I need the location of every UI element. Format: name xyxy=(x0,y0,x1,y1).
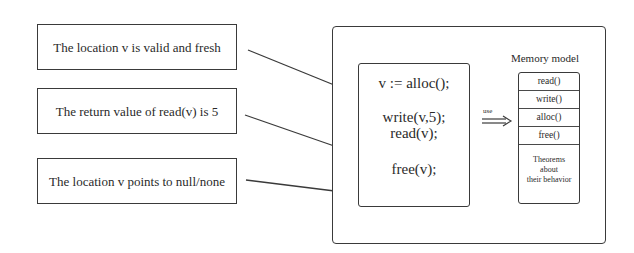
mm-op-free: free() xyxy=(519,127,579,145)
program-code-box: v := alloc(); write(v,5); read(v); free(… xyxy=(358,63,470,207)
code-line-free: free(v); xyxy=(359,161,469,177)
mm-op-write: write() xyxy=(519,91,579,109)
code-line-alloc: v := alloc(); xyxy=(359,75,469,91)
mm-theorems-line: their behavior xyxy=(519,175,579,185)
claim-box-valid-fresh: The location v is valid and fresh xyxy=(37,24,237,70)
memory-model-title: Memory model xyxy=(505,52,585,64)
claim-text: The location v points to null/none xyxy=(49,174,225,189)
claim-text: The return value of read(v) is 5 xyxy=(56,104,218,119)
mm-op-alloc: alloc() xyxy=(519,109,579,127)
double-arrow-icon xyxy=(481,115,515,127)
use-label: use xyxy=(483,107,492,115)
mm-op-read: read() xyxy=(519,73,579,91)
memory-model-box: read() write() alloc() free() Theorems a… xyxy=(518,72,580,204)
claim-text: The location v is valid and fresh xyxy=(53,40,221,55)
code-line-write: write(v,5); xyxy=(359,109,469,125)
mm-theorems-line: about xyxy=(519,165,579,175)
claim-box-null: The location v points to null/none xyxy=(37,158,237,204)
code-line-read: read(v); xyxy=(359,125,469,141)
claim-box-read-value: The return value of read(v) is 5 xyxy=(37,88,237,134)
mm-theorems-line: Theorems xyxy=(519,155,579,165)
mm-theorems: Theorems about their behavior xyxy=(519,145,579,185)
